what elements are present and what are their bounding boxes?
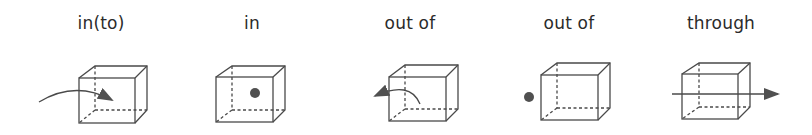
cube-through [682, 63, 750, 119]
arrow-out-of [375, 90, 420, 104]
dot-inside [250, 88, 260, 98]
cube-into [79, 66, 147, 123]
cube-out-of-position [541, 63, 610, 120]
cube-out-of-motion [389, 65, 458, 121]
dot-outside [524, 92, 534, 102]
arrow-into [39, 90, 112, 102]
preposition-diagram [0, 0, 812, 135]
